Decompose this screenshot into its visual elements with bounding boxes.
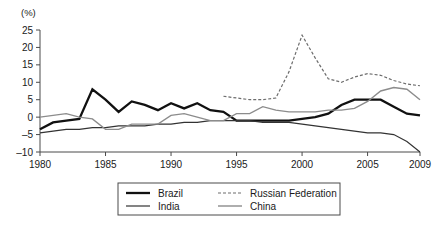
- legend-label-brazil: Brazil: [158, 188, 183, 199]
- x-axis-ticks: 1980198519901995200020052009: [29, 152, 432, 170]
- x-tick-label: 1980: [29, 159, 52, 170]
- y-tick-label: 5: [27, 94, 33, 105]
- x-tick-label: 1990: [160, 159, 183, 170]
- legend-label-china: China: [250, 201, 277, 212]
- chart-container: (%) –10–50510152025 19801985199019952000…: [0, 0, 439, 226]
- x-tick-label: 2005: [356, 159, 379, 170]
- y-tick-label: 0: [27, 112, 33, 123]
- y-tick-label: 10: [22, 77, 34, 88]
- chart-legend: BrazilRussian FederationIndiaChina: [118, 183, 340, 215]
- y-tick-label: 15: [22, 59, 34, 70]
- y-tick-label: 20: [22, 42, 34, 53]
- x-tick-label: 1995: [225, 159, 248, 170]
- line-chart: (%) –10–50510152025 19801985199019952000…: [0, 0, 439, 226]
- series-line-india: [40, 121, 420, 152]
- x-tick-label: 2000: [291, 159, 314, 170]
- y-axis-unit-label: (%): [21, 7, 36, 18]
- data-series-group: [40, 35, 420, 152]
- x-tick-label: 1985: [94, 159, 117, 170]
- axes: [40, 30, 420, 152]
- y-tick-label: –5: [22, 129, 34, 140]
- y-tick-label: –10: [16, 147, 33, 158]
- unit-label-group: (%): [21, 7, 36, 18]
- x-tick-label: 2009: [409, 159, 432, 170]
- y-axis-ticks: –10–50510152025: [16, 25, 40, 158]
- y-tick-label: 25: [22, 25, 34, 36]
- legend-label-india: India: [158, 201, 180, 212]
- legend-label-russian-federation: Russian Federation: [250, 188, 337, 199]
- series-line-russian-federation: [223, 35, 420, 99]
